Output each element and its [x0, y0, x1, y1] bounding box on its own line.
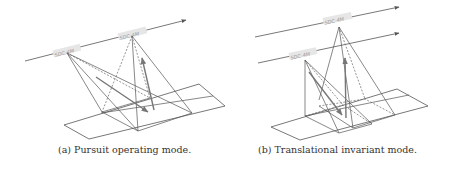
svg-text:SDC-4M: SDC-4M [290, 50, 311, 60]
ground-plane [271, 89, 428, 140]
satellite-icon: SDC-4M [52, 44, 81, 58]
orbit-track-lower [258, 33, 399, 63]
caption-a: (a) Pursuit operating mode. [58, 144, 191, 155]
panel-translational-invariant-mode: SDC-4M SDC-4M [225, 0, 451, 142]
ground-motion-arrow [309, 72, 342, 115]
caption-b: (b) Translational invariant mode. [258, 144, 417, 155]
svg-text:SDC-4M: SDC-4M [324, 15, 345, 25]
orbit-track [25, 20, 186, 61]
svg-text:SDC-4M: SDC-4M [119, 30, 140, 41]
pointing-arrow [345, 58, 346, 118]
panel-pursuit-mode: SDC-4M SDC-4M [0, 0, 230, 142]
ground-motion-arrow [96, 77, 148, 112]
svg-text:SDC-4M: SDC-4M [54, 47, 75, 58]
satellite-icon: SDC-4M [288, 47, 317, 60]
translational-mode-diagram: SDC-4M SDC-4M [225, 0, 451, 142]
satellite-icon: SDC-4M [322, 12, 352, 26]
pursuit-mode-diagram: SDC-4M SDC-4M [0, 0, 230, 142]
ground-plane [64, 84, 225, 139]
pointing-arrow [142, 58, 154, 110]
